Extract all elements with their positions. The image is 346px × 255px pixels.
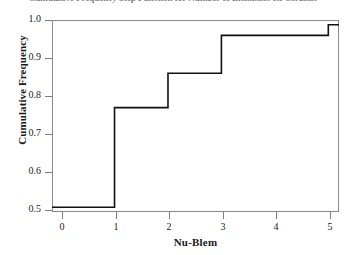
y-tick-label: 0.7: [29, 127, 42, 138]
x-tick-label: 3: [211, 221, 235, 232]
x-tick-mark: [330, 212, 331, 219]
x-tick-label: 2: [157, 221, 181, 232]
x-tick-label: 1: [104, 221, 128, 232]
chart-title: Cumulative Frequency Step Function for N…: [0, 0, 346, 5]
x-tick-mark: [116, 212, 117, 219]
y-tick-mark: [45, 210, 52, 211]
y-axis-title: Cumulative Frequency: [16, 0, 28, 180]
y-tick-mark: [45, 134, 52, 135]
y-tick-label: 1.0: [29, 13, 42, 24]
x-axis-title: Nu-Blem: [52, 236, 339, 248]
y-tick-mark: [45, 96, 52, 97]
x-tick-mark: [276, 212, 277, 219]
x-tick-label: 5: [318, 221, 342, 232]
y-tick-label: 0.9: [29, 51, 42, 62]
plot-frame: [52, 20, 339, 212]
y-tick-mark: [45, 20, 52, 21]
y-tick-mark: [45, 172, 52, 173]
x-tick-mark: [223, 212, 224, 219]
y-tick-label: 0.5: [29, 203, 42, 214]
y-tick-label: 0.6: [29, 165, 42, 176]
x-tick-mark: [169, 212, 170, 219]
x-tick-mark: [62, 212, 63, 219]
x-tick-label: 4: [264, 221, 288, 232]
y-tick-mark: [45, 58, 52, 59]
x-tick-label: 0: [50, 221, 74, 232]
y-tick-label: 0.8: [29, 89, 42, 100]
